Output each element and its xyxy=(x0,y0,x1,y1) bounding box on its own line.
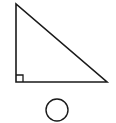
right-angle-marker xyxy=(16,75,23,82)
triangle-outline xyxy=(16,4,107,82)
right-triangle xyxy=(16,4,107,82)
circle-shape xyxy=(46,99,68,121)
diagram-canvas xyxy=(0,0,116,123)
